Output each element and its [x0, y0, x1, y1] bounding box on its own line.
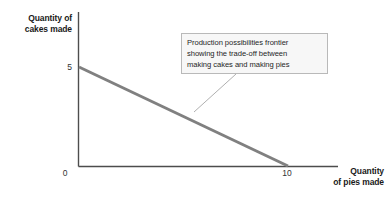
x-axis-title-line2: of pies made [333, 177, 384, 187]
x-axis-tick-label-0: 0 [56, 168, 74, 178]
y-axis-tick-label-5: 5 [54, 62, 72, 72]
x-axis-title: Quantityof pies made [318, 166, 384, 188]
y-axis-title-line2: cakes made [25, 24, 72, 34]
ppf-curve [79, 67, 288, 166]
annotation-leader-line [194, 74, 236, 112]
y-axis-title-line1: Quantity of [28, 13, 72, 23]
annotation-callout-text: Production possibilities frontier showin… [187, 38, 322, 70]
y-axis-title: Quantity ofcakes made [8, 13, 72, 35]
x-axis-tick-label-10: 10 [276, 168, 298, 178]
annotation-callout-box: Production possibilities frontier showin… [181, 33, 328, 74]
x-axis-title-line1: Quantity [350, 166, 384, 176]
ppf-chart-figure: Quantity ofcakes made Quantityof pies ma… [0, 0, 388, 198]
